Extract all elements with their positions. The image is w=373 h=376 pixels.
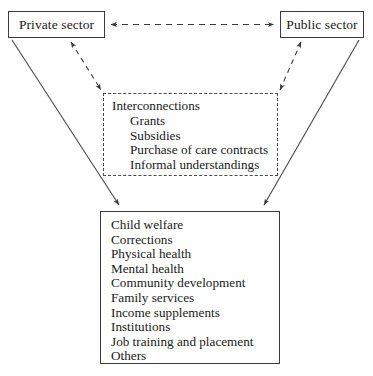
- list-item: Community development: [111, 276, 279, 291]
- list-item: Grants: [130, 114, 277, 129]
- node-services[interactable]: Child welfare Corrections Physical healt…: [100, 211, 280, 364]
- list-item: Physical health: [111, 247, 279, 262]
- list-item: Institutions: [111, 320, 279, 335]
- interconnections-list: Grants Subsidies Purchase of care contra…: [112, 114, 277, 173]
- list-item: Informal understandings: [130, 158, 277, 173]
- services-list: Child welfare Corrections Physical healt…: [111, 218, 279, 364]
- list-item: Corrections: [111, 233, 279, 248]
- connector-public-services: [264, 40, 359, 205]
- node-public-sector[interactable]: Public sector: [280, 11, 364, 38]
- private-sector-label: Private sector: [19, 18, 94, 32]
- node-private-sector[interactable]: Private sector: [8, 11, 105, 38]
- list-item: Subsidies: [130, 129, 277, 144]
- list-item: Family services: [111, 291, 279, 306]
- node-interconnections[interactable]: Interconnections Grants Subsidies Purcha…: [103, 93, 278, 176]
- connector-private-interconnections: [71, 42, 101, 90]
- diagram-canvas: Private sector Public sector Interconnec…: [0, 0, 373, 376]
- public-sector-label: Public sector: [286, 18, 357, 32]
- list-item: Income supplements: [111, 306, 279, 321]
- list-item: Mental health: [111, 262, 279, 277]
- list-item: Child welfare: [111, 218, 279, 233]
- list-item: Job training and placement: [111, 335, 279, 350]
- list-item: Others: [111, 349, 279, 364]
- interconnections-heading: Interconnections: [112, 99, 277, 114]
- list-item: Purchase of care contracts: [130, 143, 277, 158]
- connector-public-interconnections: [280, 42, 301, 90]
